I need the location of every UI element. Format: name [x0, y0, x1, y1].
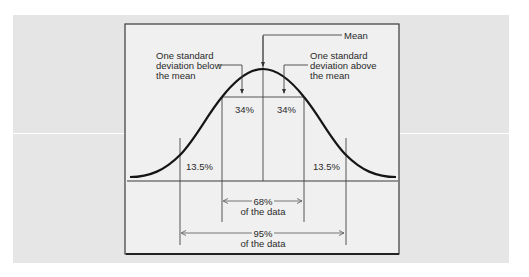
- range-68-sublabel: of the data: [241, 206, 287, 217]
- mean-label: Mean: [344, 30, 368, 41]
- pct-34-left: 34%: [235, 104, 255, 115]
- below-mean-label-line3: the mean: [156, 70, 196, 81]
- above-mean-label-line3: the mean: [310, 70, 350, 81]
- pct-13-5-left: 13.5%: [186, 161, 213, 172]
- range-95-sublabel: of the data: [241, 238, 287, 249]
- pct-34-right: 34%: [277, 104, 297, 115]
- normal-distribution-diagram: Mean One standard deviation below the me…: [0, 0, 529, 277]
- pct-13-5-right: 13.5%: [313, 161, 340, 172]
